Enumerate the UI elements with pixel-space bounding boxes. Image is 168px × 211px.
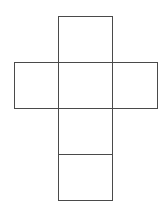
face-top xyxy=(58,16,113,63)
face-center xyxy=(58,62,113,109)
face-bottom xyxy=(58,154,113,201)
face-left xyxy=(14,62,59,109)
cube-net-diagram xyxy=(0,0,168,211)
face-right xyxy=(112,62,158,109)
face-lower xyxy=(58,108,113,155)
